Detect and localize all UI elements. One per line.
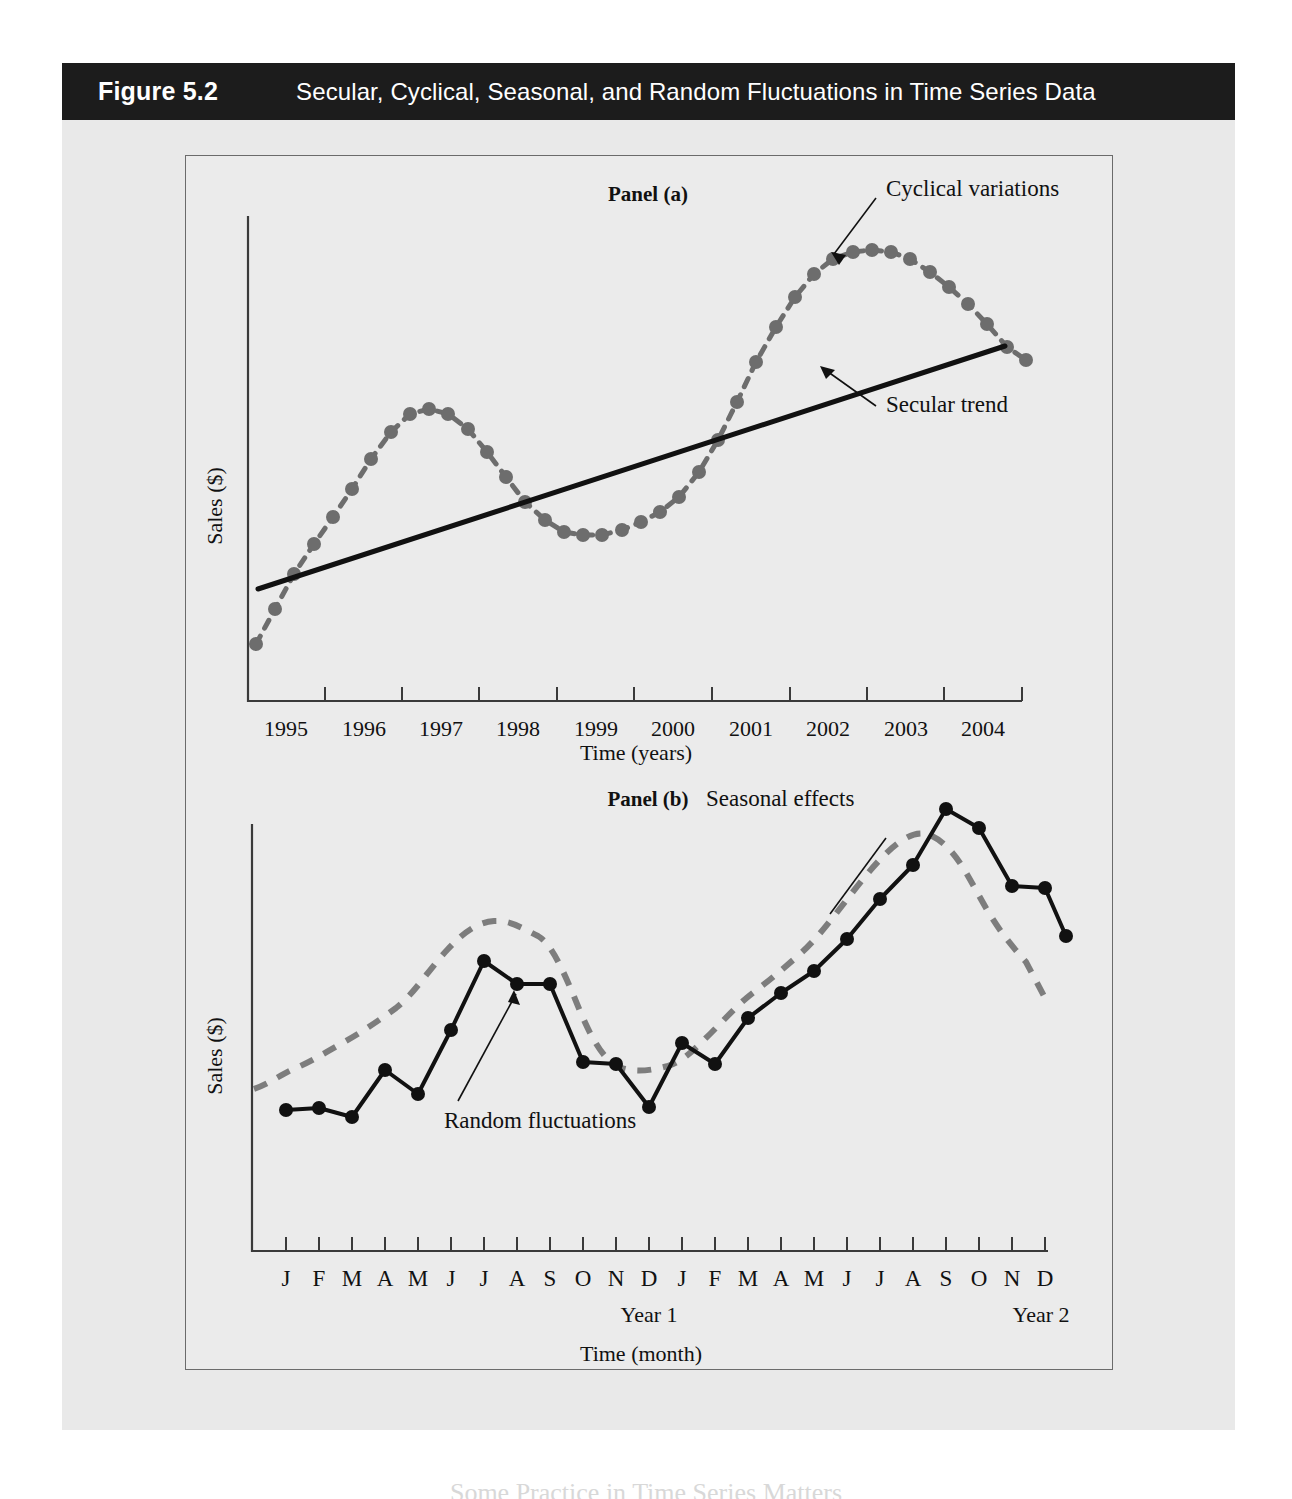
- svg-text:D: D: [641, 1266, 658, 1291]
- bottom-caption: Some Practice in Time Series Matters: [0, 1478, 1292, 1499]
- panel-b-xticks: [286, 1237, 1045, 1251]
- panel-b-title: Panel (b): [607, 787, 688, 811]
- svg-text:A: A: [509, 1266, 526, 1291]
- svg-text:J: J: [678, 1266, 687, 1291]
- svg-text:F: F: [709, 1266, 722, 1291]
- seasonal-effects-label: Seasonal effects: [706, 786, 854, 811]
- svg-text:J: J: [480, 1266, 489, 1291]
- svg-text:A: A: [905, 1266, 922, 1291]
- plot-frame: Panel (a) Sales ($): [185, 155, 1113, 1370]
- panel-a-chart: Panel (a) Sales ($): [186, 156, 1111, 756]
- svg-text:N: N: [608, 1266, 625, 1291]
- figure-card: Figure 5.2 Secular, Cyclical, Seasonal, …: [62, 63, 1235, 1430]
- svg-text:N: N: [1004, 1266, 1021, 1291]
- panel-b-axes: [252, 824, 1048, 1251]
- figure-header-bar: Figure 5.2 Secular, Cyclical, Seasonal, …: [62, 63, 1235, 120]
- svg-text:J: J: [282, 1266, 291, 1291]
- svg-text:F: F: [313, 1266, 326, 1291]
- svg-text:A: A: [773, 1266, 790, 1291]
- svg-text:O: O: [971, 1266, 988, 1291]
- svg-text:M: M: [804, 1266, 824, 1291]
- panel-b-year2-label: Year 2: [1012, 1302, 1069, 1327]
- figure-body: Panel (a) Sales ($): [62, 120, 1235, 1430]
- panel-b-actual-line: [286, 809, 1066, 1117]
- panel-b-actual-markers: [279, 802, 1073, 1124]
- panel-b-seasonal-annotation: Seasonal effects: [706, 786, 886, 914]
- svg-text:M: M: [342, 1266, 362, 1291]
- panel-b-xtick-labels: J F M A M J J A S O N D J F M A M: [282, 1266, 1054, 1291]
- svg-text:J: J: [447, 1266, 456, 1291]
- panel-a-xticks: [248, 687, 1022, 701]
- figure-number: Figure 5.2: [98, 77, 218, 106]
- panel-a-title: Panel (a): [608, 182, 688, 206]
- figure-title: Secular, Cyclical, Seasonal, and Random …: [296, 78, 1096, 106]
- panel-a-cyclical-markers: [249, 243, 1033, 651]
- panel-b-ylabel: Sales ($): [202, 1017, 227, 1095]
- panel-b-year1-label: Year 1: [620, 1302, 677, 1327]
- svg-text:D: D: [1037, 1266, 1054, 1291]
- panel-a-cyclical-line: [256, 250, 1026, 644]
- panel-b-xlabel: Time (month): [580, 1341, 702, 1366]
- svg-text:A: A: [377, 1266, 394, 1291]
- panel-a-ylabel: Sales ($): [202, 467, 227, 545]
- secular-trend-label: Secular trend: [886, 392, 1008, 417]
- panel-b-chart: Panel (b) Sales ($): [186, 756, 1111, 1371]
- svg-text:S: S: [544, 1266, 557, 1291]
- svg-text:O: O: [575, 1266, 592, 1291]
- cyclical-variations-label: Cyclical variations: [886, 176, 1059, 201]
- random-fluctuations-label: Random fluctuations: [444, 1108, 636, 1133]
- svg-text:J: J: [843, 1266, 852, 1291]
- svg-text:S: S: [940, 1266, 953, 1291]
- svg-text:J: J: [876, 1266, 885, 1291]
- panel-b-seasonal-line: [254, 833, 1044, 1089]
- svg-text:M: M: [738, 1266, 758, 1291]
- svg-text:M: M: [408, 1266, 428, 1291]
- panel-a-secular-trend-line: [258, 346, 1005, 589]
